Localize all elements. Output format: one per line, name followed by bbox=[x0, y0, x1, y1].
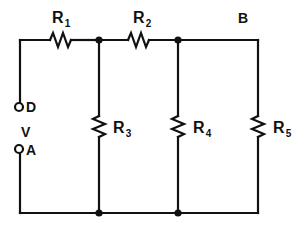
resistor-r1-zigzag bbox=[50, 33, 71, 47]
resistor-label-r4-base: R bbox=[193, 119, 205, 136]
resistor-label-r5-subscript: 5 bbox=[286, 128, 292, 139]
r4-branch-group bbox=[172, 40, 184, 213]
resistor-label-r3: R3 bbox=[113, 120, 131, 136]
resistor-label-r3-subscript: 3 bbox=[126, 128, 132, 139]
resistor-label-r2: R2 bbox=[133, 10, 151, 26]
resistor-label-r1-base: R bbox=[52, 9, 64, 26]
node-label-b: B bbox=[238, 11, 248, 25]
source-label-v: V bbox=[21, 125, 30, 139]
terminal-a-circle bbox=[15, 145, 23, 153]
terminal-label-d: D bbox=[26, 100, 36, 114]
resistor-label-r5-base: R bbox=[273, 119, 285, 136]
terminal-d-circle bbox=[15, 103, 23, 111]
terminal-label-a: A bbox=[26, 143, 36, 157]
resistor-label-r4-subscript: 4 bbox=[206, 128, 212, 139]
circuit-diagram: R1 R2 R3 R4 R5 B D V A bbox=[0, 0, 305, 235]
junction-dot-group bbox=[95, 36, 181, 216]
r5-branch-group bbox=[252, 40, 264, 213]
resistor-r2-zigzag bbox=[128, 33, 149, 47]
resistor-label-r4: R4 bbox=[193, 120, 211, 136]
schematic-canvas bbox=[0, 0, 305, 235]
resistor-label-r1: R1 bbox=[52, 10, 70, 26]
junction-dot-bottom-right bbox=[174, 209, 181, 216]
resistor-label-r5: R5 bbox=[273, 120, 291, 136]
r3-branch-group bbox=[93, 40, 105, 213]
top-wire-group bbox=[20, 33, 258, 47]
resistor-r5-zigzag bbox=[252, 116, 264, 137]
resistor-label-r2-subscript: 2 bbox=[146, 18, 152, 29]
resistor-r4-zigzag bbox=[172, 116, 184, 137]
junction-dot-bottom-left bbox=[95, 209, 102, 216]
junction-dot-top-right bbox=[174, 36, 181, 43]
resistor-label-r3-base: R bbox=[113, 119, 125, 136]
resistor-label-r2-base: R bbox=[133, 9, 145, 26]
junction-dot-top-left bbox=[95, 36, 102, 43]
resistor-r3-zigzag bbox=[93, 116, 105, 137]
resistor-label-r1-subscript: 1 bbox=[65, 18, 71, 29]
